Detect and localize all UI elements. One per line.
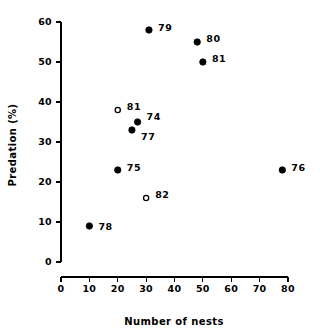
x-axis-tick-label: 40 (168, 283, 182, 294)
data-point-label: 81 (212, 53, 226, 64)
y-axis-title: Predation (%) (7, 104, 18, 187)
data-point-label: 78 (98, 221, 112, 232)
data-point-filled: 77 (129, 127, 156, 142)
data-point-label: 75 (127, 162, 141, 173)
x-axis-tick-label: 70 (253, 283, 267, 294)
data-point-open: 82 (144, 189, 170, 200)
data-point-label: 77 (141, 131, 155, 142)
data-point-label: 81 (127, 101, 141, 112)
x-axis-tick-label: 10 (82, 283, 96, 294)
data-point-label: 74 (147, 111, 161, 122)
y-axis-tick-label: 0 (45, 256, 52, 267)
y-axis-tick-label: 10 (38, 216, 52, 227)
data-point-filled: 78 (86, 221, 113, 232)
data-point-label: 79 (158, 22, 172, 33)
x-axis-tick-label: 20 (111, 283, 125, 294)
x-axis-tick-label: 0 (58, 283, 65, 294)
x-axis-tick-label: 30 (139, 283, 153, 294)
open-circle-marker (115, 107, 120, 112)
open-circle-marker (144, 195, 149, 200)
filled-circle-marker (146, 27, 152, 33)
filled-circle-marker (134, 119, 140, 125)
data-point-label: 82 (155, 189, 169, 200)
filled-circle-marker (115, 167, 121, 173)
filled-circle-marker (200, 59, 206, 65)
data-point-filled: 74 (134, 111, 161, 125)
data-point-filled: 75 (115, 162, 142, 173)
data-point-filled: 80 (194, 33, 221, 45)
filled-circle-marker (279, 167, 285, 173)
y-axis-tick-label: 30 (38, 136, 52, 147)
x-axis-tick-label: 80 (281, 283, 295, 294)
y-axis-tick-label: 20 (38, 176, 52, 187)
filled-circle-marker (86, 223, 92, 229)
data-point-filled: 79 (146, 22, 173, 33)
x-axis-tick-label: 50 (196, 283, 210, 294)
y-axis-tick-label: 50 (38, 56, 52, 67)
data-point-label: 76 (291, 162, 305, 173)
data-point-open: 81 (115, 101, 141, 112)
data-point-filled: 76 (279, 162, 306, 173)
y-axis-tick-label: 60 (38, 16, 52, 27)
data-point-filled: 81 (200, 53, 227, 65)
filled-circle-marker (194, 39, 200, 45)
x-axis-tick-label: 60 (224, 283, 238, 294)
data-point-label: 80 (206, 33, 220, 44)
plot-canvas: 0102030405060 01020304050607080 78757774… (0, 0, 320, 332)
x-axis: 01020304050607080 (58, 277, 295, 294)
data-points-layer: 78757774798081768182 (86, 22, 306, 232)
y-axis-tick-label: 40 (38, 96, 52, 107)
y-axis: 0102030405060 (38, 16, 61, 267)
filled-circle-marker (129, 127, 135, 133)
scatter-plot-figure: 0102030405060 01020304050607080 78757774… (0, 0, 320, 332)
x-axis-title: Number of nests (124, 316, 224, 327)
